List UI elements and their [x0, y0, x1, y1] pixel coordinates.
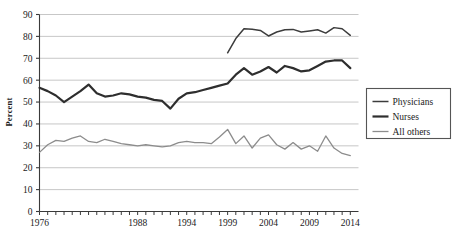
line-chart: 0102030405060708090 19761988199419992004… — [0, 0, 453, 237]
y-tick-label: 70 — [23, 54, 33, 64]
y-axis-title: Percent — [4, 97, 14, 126]
chart-figure: 0102030405060708090 19761988199419992004… — [0, 0, 453, 237]
x-tick-label: 2009 — [300, 218, 319, 228]
y-tick-label: 0 — [28, 207, 33, 217]
legend-label: Nurses — [393, 112, 420, 122]
y-tick-label: 60 — [23, 76, 33, 86]
legend-label: Physicians — [393, 97, 434, 107]
chart-legend: PhysiciansNursesAll others — [367, 89, 451, 139]
y-tick-label: 10 — [23, 185, 33, 195]
x-tick-label: 1994 — [177, 218, 196, 228]
legend-label: All others — [393, 127, 431, 137]
y-tick-label: 30 — [23, 141, 33, 151]
y-tick-label: 20 — [23, 163, 33, 173]
x-tick-label: 2014 — [341, 218, 360, 228]
x-tick-label: 1999 — [218, 218, 237, 228]
x-tick-label: 2004 — [259, 218, 278, 228]
x-tick-label: 1988 — [128, 218, 147, 228]
y-tick-label: 90 — [23, 10, 33, 20]
y-tick-label: 50 — [23, 97, 33, 107]
x-tick-label: 1976 — [30, 218, 49, 228]
y-tick-label: 80 — [23, 32, 33, 42]
y-tick-label: 40 — [23, 119, 33, 129]
